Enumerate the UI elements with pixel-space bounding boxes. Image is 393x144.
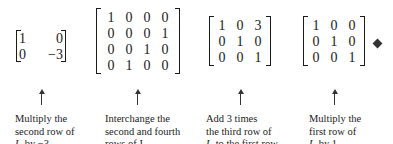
caption-2: Interchange the second and fourth rows o…: [105, 113, 180, 144]
matrix-cell: 1: [249, 50, 267, 66]
right-bracket: [61, 30, 66, 62]
matrix-cell: 0: [231, 18, 249, 34]
arrow-up-icon: [334, 93, 335, 105]
matrix-cell: 0: [343, 18, 361, 34]
matrix-cell: 0: [307, 34, 325, 50]
matrix-cell: 0: [213, 50, 231, 66]
matrix-cell: 1: [138, 42, 156, 58]
diamond-icon: [373, 39, 383, 49]
caption-4: Multiply the first row of I3 by 1.: [309, 113, 361, 144]
matrix-cell: 0: [325, 50, 343, 66]
matrix-cell: 0: [325, 18, 343, 34]
left-bracket: [96, 8, 101, 74]
caption-line: Multiply the: [309, 113, 361, 126]
caption-line: first row of: [309, 126, 361, 139]
caption-line: I3 by 1.: [309, 138, 361, 144]
right-bracket: [266, 16, 271, 66]
matrix-cell: −3: [33, 47, 63, 63]
right-bracket: [175, 8, 180, 74]
matrix-cell: 0: [138, 10, 156, 26]
matrix-cell: 0: [120, 26, 138, 42]
caption-line: Multiply the: [15, 113, 74, 126]
matrix-3: 1 0 3 0 1 0 0 0 1: [209, 16, 271, 66]
matrix-cell: 1: [307, 18, 325, 34]
matrix-cell: 1: [120, 58, 138, 74]
matrix-2: 1 0 0 0 0 0 0 1 0 0 1 0 0 1 0 0: [96, 8, 180, 74]
matrix-cell: 0: [102, 58, 120, 74]
left-bracket: [209, 16, 214, 66]
matrix-cell: 0: [120, 10, 138, 26]
caption-line: I2 by −3.: [15, 138, 74, 144]
matrix-cell: 1: [325, 34, 343, 50]
matrix-cell: 0: [213, 34, 231, 50]
matrix-cell: 0: [138, 58, 156, 74]
matrix-cell: 0: [156, 10, 174, 26]
matrix-cell: 1: [213, 18, 231, 34]
caption-line: rows of I4.: [105, 138, 180, 144]
matrix-cell: 0: [156, 42, 174, 58]
matrix-4: 1 0 0 0 1 0 0 0 1: [303, 16, 365, 66]
matrix-cell: 0: [120, 42, 138, 58]
matrix-cell: 3: [249, 18, 267, 34]
matrix-cell: 0: [102, 42, 120, 58]
matrix-cell: 0: [343, 34, 361, 50]
caption-line: Interchange the: [105, 113, 180, 126]
matrix-cell: 0: [249, 34, 267, 50]
matrix-cell: 1: [19, 31, 33, 47]
matrix-cell: 0: [33, 31, 63, 47]
caption-line: I3 to the first row.: [206, 138, 280, 144]
arrow-up-icon: [240, 93, 241, 105]
matrix-1: 1 0 0 −3: [16, 30, 66, 62]
left-bracket: [16, 30, 21, 62]
matrix-cell: 0: [156, 58, 174, 74]
caption-line: the third row of: [206, 126, 280, 139]
right-bracket: [360, 16, 365, 66]
caption-line: Add 3 times: [206, 113, 280, 126]
matrix-cell: 0: [19, 47, 33, 63]
arrow-up-icon: [41, 93, 42, 105]
caption-1: Multiply the second row of I2 by −3.: [15, 113, 74, 144]
matrix-cell: 0: [231, 50, 249, 66]
matrix-cell: 0: [138, 26, 156, 42]
matrix-cell: 0: [102, 26, 120, 42]
matrix-cell: 1: [156, 26, 174, 42]
matrix-cell: 1: [102, 10, 120, 26]
caption-3: Add 3 times the third row of I3 to the f…: [206, 113, 280, 144]
matrix-cell: 1: [231, 34, 249, 50]
matrix-cell: 0: [307, 50, 325, 66]
caption-line: second and fourth: [105, 126, 180, 139]
caption-line: second row of: [15, 126, 74, 139]
matrix-cell: 1: [343, 50, 361, 66]
left-bracket: [303, 16, 308, 66]
arrow-up-icon: [137, 93, 138, 105]
